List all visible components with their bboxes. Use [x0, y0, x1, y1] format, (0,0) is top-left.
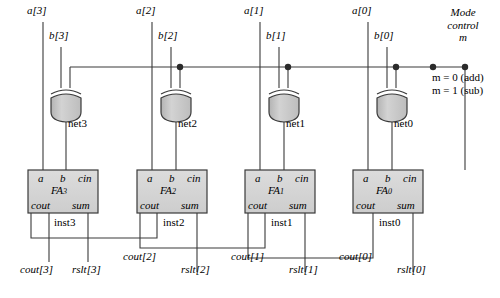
junction-dot-mode-right: [430, 64, 436, 70]
mode-caption-line1: Mode: [432, 6, 494, 19]
fa2-port-cin: cin: [187, 172, 200, 184]
fa0-port-sum: sum: [397, 199, 415, 211]
fa1-port-b: b: [277, 172, 283, 184]
label-inst2: inst2: [163, 216, 184, 228]
fa3-name: FA3: [51, 184, 67, 196]
fa1-port-cin: cin: [295, 172, 308, 184]
label-a0: a[0]: [352, 4, 372, 16]
label-cout2: cout[2]: [123, 250, 156, 262]
fa2-port-sum: sum: [181, 199, 199, 211]
fa0-port-b: b: [385, 172, 391, 184]
label-rslt0: rslt[0]: [397, 263, 426, 275]
label-cout0: cout[0]: [339, 250, 372, 262]
label-b1: b[1]: [266, 29, 286, 41]
label-inst3: inst3: [54, 216, 75, 228]
fa2-port-b: b: [169, 172, 175, 184]
label-a1: a[1]: [244, 4, 264, 16]
label-a3: a[3]: [27, 4, 47, 16]
fa1-name: FA1: [268, 184, 284, 196]
fa2-port-a: a: [147, 172, 153, 184]
fa3-port-sum: sum: [72, 199, 90, 211]
label-inst1: inst1: [271, 216, 292, 228]
mode-control-caption: Mode control m: [432, 6, 494, 44]
label-cout1: cout[1]: [231, 250, 264, 262]
junction-dot-mode-end: [462, 64, 468, 70]
fa3-port-cout: cout: [31, 199, 50, 211]
fa3-port-b: b: [60, 172, 66, 184]
circuit-diagram: a[3] b[3] net3 inst3 cout[3] rslt[3] a[2…: [0, 0, 500, 298]
label-a2: a[2]: [136, 4, 156, 16]
fa2-port-cout: cout: [140, 199, 159, 211]
fa0-name: FA0: [376, 184, 392, 196]
label-b2: b[2]: [158, 29, 178, 41]
mode-caption-line3: m: [432, 31, 494, 44]
fa2-name: FA2: [160, 184, 176, 196]
label-rslt3: rslt[3]: [72, 263, 101, 275]
label-rslt2: rslt[2]: [181, 263, 210, 275]
fa3-port-cin: cin: [78, 172, 91, 184]
label-b3: b[3]: [49, 29, 69, 41]
label-rslt1: rslt[1]: [289, 263, 318, 275]
fa1-port-cout: cout: [248, 199, 267, 211]
label-net1: net1: [286, 117, 305, 129]
label-net3: net3: [68, 117, 87, 129]
fa1-port-sum: sum: [289, 199, 307, 211]
label-b0: b[0]: [374, 29, 394, 41]
fa0-port-cin: cin: [403, 172, 416, 184]
fa0-port-cout: cout: [356, 199, 375, 211]
label-cout3: cout[3]: [20, 263, 53, 275]
mode-equation-sub: m = 1 (sub): [432, 84, 483, 97]
label-net0: net0: [394, 117, 413, 129]
junction-dot-mode-1: [285, 64, 291, 70]
junction-dot-mode-2: [177, 64, 183, 70]
fa3-port-a: a: [38, 172, 44, 184]
junction-dot-mode-0: [393, 64, 399, 70]
fa0-port-a: a: [363, 172, 369, 184]
mode-caption-line2: control: [432, 19, 494, 32]
mode-equation-add: m = 0 (add): [432, 71, 484, 84]
label-inst0: inst0: [379, 216, 400, 228]
label-net2: net2: [178, 117, 197, 129]
fa1-port-a: a: [255, 172, 261, 184]
